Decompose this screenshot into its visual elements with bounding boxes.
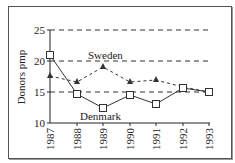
line-chart: 25 20 15 10 Donors pmp 1987 1988 1989 19… [0, 0, 235, 163]
axes [47, 30, 210, 126]
denmark-label: Denmark [80, 110, 121, 122]
sweden-label: Sweden [88, 49, 123, 61]
x-tick-1991: 1991 [150, 128, 162, 150]
y-tick-25: 25 [34, 24, 46, 36]
x-tick-1989: 1989 [97, 128, 109, 151]
x-tick-1987: 1987 [44, 128, 56, 151]
y-tick-10: 10 [34, 117, 46, 129]
x-tick-1990: 1990 [124, 128, 136, 151]
sweden-markers [47, 63, 186, 90]
x-tick-1988: 1988 [71, 128, 83, 151]
y-axis-label: Donors pmp [15, 49, 27, 104]
y-tick-15: 15 [34, 86, 46, 98]
x-tick-1993: 1993 [203, 128, 215, 151]
y-tick-20: 20 [34, 55, 46, 67]
x-tick-1992: 1992 [177, 128, 189, 150]
